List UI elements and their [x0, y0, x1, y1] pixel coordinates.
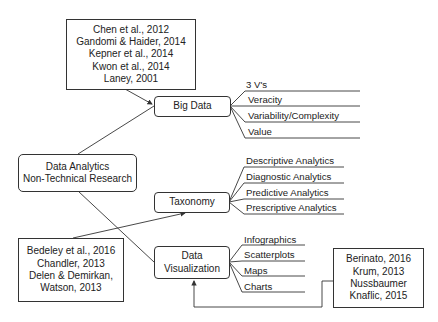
leaf-scatterplots: Scatterplots: [244, 249, 295, 260]
node-label-line: Data: [181, 250, 202, 262]
reference: Chen et al., 2012: [93, 24, 169, 36]
root-label-line: Non-Technical Research: [23, 173, 132, 185]
reference: Kwon et al., 2014: [92, 61, 169, 73]
leaf-descriptive: Descriptive Analytics: [246, 155, 334, 166]
reference: Bedeley et al., 2016: [27, 245, 115, 257]
leaf-charts: Charts: [244, 281, 272, 292]
leaf-variability: Variability/Complexity: [248, 110, 339, 121]
reference: Knaflic, 2015: [350, 290, 408, 302]
root-node: Data Analytics Non-Technical Research: [18, 154, 137, 192]
leaf-infographics: Infographics: [244, 234, 296, 245]
leaf-veracity: Veracity: [248, 94, 282, 105]
leaf-3vs: 3 V's: [246, 79, 267, 90]
leaf-value: Value: [248, 126, 272, 137]
node-label-line: Visualization: [164, 263, 220, 275]
reference: Chandler, 2013: [37, 258, 105, 270]
reference: Krum, 2013: [353, 266, 405, 278]
leaf-prescriptive: Prescriptive Analytics: [246, 202, 337, 213]
node-label: Big Data: [173, 100, 211, 112]
leaf-diagnostic: Diagnostic Analytics: [246, 171, 331, 182]
leaf-predictive: Predictive Analytics: [246, 187, 329, 198]
reference: Watson, 2013: [40, 282, 101, 294]
root-label-line: Data Analytics: [46, 161, 109, 173]
taxonomy-node: Taxonomy: [154, 192, 230, 213]
reference: Nussbaumer: [350, 278, 407, 290]
reference: Berinato, 2016: [346, 253, 411, 265]
reference: Kepner et al., 2014: [89, 48, 174, 60]
data-visualization-node: Data Visualization: [154, 246, 230, 279]
reference: Delen & Demirkan,: [29, 270, 113, 282]
big-data-node: Big Data: [154, 96, 231, 117]
taxonomy-references-box: Bedeley et al., 2016 Chandler, 2013 Dele…: [18, 238, 124, 302]
visualization-references-box: Berinato, 2016 Krum, 2013 Nussbaumer Kna…: [333, 248, 424, 308]
big-data-references-box: Chen et al., 2012 Gandomi & Haider, 2014…: [66, 19, 196, 90]
node-label: Taxonomy: [169, 196, 215, 208]
leaf-maps: Maps: [244, 265, 267, 276]
reference: Laney, 2001: [104, 73, 158, 85]
reference: Gandomi & Haider, 2014: [76, 36, 186, 48]
